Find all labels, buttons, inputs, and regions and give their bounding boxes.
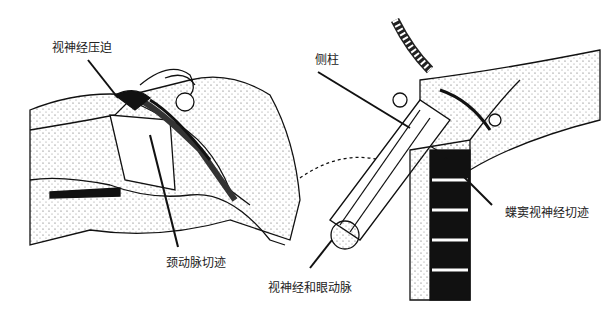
- label-optic-nerve-ophthalmic-artery: 视神经和眼动脉: [268, 278, 352, 295]
- label-lateral-column: 侧柱: [315, 50, 339, 67]
- right-3d-figure: [330, 20, 600, 300]
- label-carotid-notch: 颈动脉切迹: [166, 253, 226, 270]
- label-optic-compression: 视神经压迫: [52, 38, 112, 55]
- label-sphenoid-optic-notch: 蝶窦视神经切迹: [505, 203, 589, 220]
- left-sagittal-figure: [30, 69, 300, 245]
